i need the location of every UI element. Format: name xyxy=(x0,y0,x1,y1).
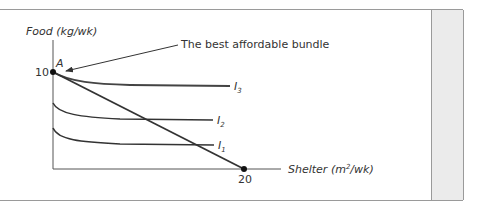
point-x-intercept xyxy=(241,166,247,172)
annotation-text: The best affordable bundle xyxy=(180,38,330,51)
curve-label-i2: I2 xyxy=(217,114,225,129)
annotation-arrow xyxy=(66,45,178,71)
chart: Food (kg/wk) 10 A 20 The best affordable… xyxy=(0,0,484,209)
point-a-label: A xyxy=(55,57,64,70)
indifference-curve-i3 xyxy=(53,72,230,86)
y-tick-10: 10 xyxy=(35,66,49,79)
indifference-curve-i2 xyxy=(53,103,213,120)
curve-label-i1: I1 xyxy=(218,139,226,154)
y-axis-label: Food (kg/wk) xyxy=(26,25,97,38)
x-axis-label: Shelter (m2/wk) xyxy=(288,163,374,176)
curve-label-i3: I3 xyxy=(234,80,242,95)
x-tick-20: 20 xyxy=(238,173,252,186)
